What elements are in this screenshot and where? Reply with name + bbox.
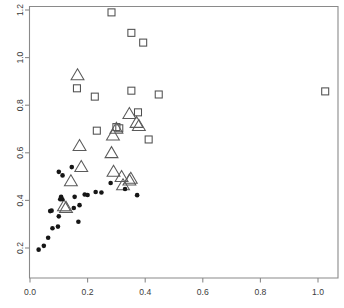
data-point-triangle — [64, 175, 77, 186]
y-tick-label: 0.4 — [15, 194, 25, 206]
x-tick-label: 0.6 — [197, 287, 209, 297]
data-point-dot — [50, 226, 55, 231]
y-axis-tick-labels: 0.20.40.60.81.01.2 — [15, 4, 25, 254]
data-point-square — [140, 39, 147, 46]
y-tick-label: 0.6 — [15, 147, 25, 159]
data-point-square — [322, 88, 329, 95]
y-tick-label: 1.2 — [15, 4, 25, 16]
series-squares — [73, 9, 328, 143]
data-point-dot — [72, 195, 77, 200]
data-point-dot — [42, 244, 47, 249]
data-point-triangle — [71, 69, 84, 80]
x-tick-label: 0.0 — [24, 287, 36, 297]
data-point-dot — [57, 170, 62, 175]
scatter-plot-figure: 0.00.20.40.60.81.0 0.20.40.60.81.01.2 — [0, 0, 344, 308]
data-point-dot — [71, 206, 76, 211]
data-point-square — [155, 91, 162, 98]
y-tick-label: 1.0 — [15, 51, 25, 63]
data-point-triangle — [130, 116, 143, 127]
axes — [30, 7, 339, 279]
data-point-dot — [69, 165, 74, 170]
series-dots — [36, 165, 139, 252]
data-point-triangle — [75, 160, 88, 171]
data-point-triangle — [105, 147, 118, 158]
x-tick-label: 0.8 — [254, 287, 266, 297]
plot-canvas: 0.00.20.40.60.81.0 0.20.40.60.81.01.2 — [0, 0, 344, 308]
x-axis-tick-labels: 0.00.20.40.60.81.0 — [24, 287, 324, 297]
data-point-dot — [60, 197, 65, 202]
data-point-dot — [93, 190, 98, 195]
data-point-dot — [57, 214, 62, 219]
y-tick-label: 0.2 — [15, 242, 25, 254]
data-point-dot — [77, 203, 82, 208]
data-point-square — [91, 93, 98, 100]
data-point-dot — [49, 208, 54, 213]
data-point-dot — [60, 173, 65, 178]
data-point-dot — [108, 181, 113, 186]
data-point-square — [93, 127, 100, 134]
data-point-triangle — [123, 108, 136, 119]
data-point-square — [128, 87, 135, 94]
data-point-square — [73, 85, 80, 92]
y-tick-label: 0.8 — [15, 99, 25, 111]
data-point-square — [145, 136, 152, 143]
data-point-dot — [36, 247, 41, 252]
data-point-square — [128, 29, 135, 36]
data-point-square — [108, 9, 115, 16]
tick-marks — [25, 10, 318, 283]
x-tick-label: 1.0 — [312, 287, 324, 297]
data-point-dot — [56, 224, 61, 229]
data-point-square — [135, 109, 142, 116]
data-point-dot — [123, 187, 128, 192]
data-point-dot — [135, 193, 140, 198]
data-point-triangle — [73, 139, 86, 150]
data-point-dot — [99, 190, 104, 195]
data-point-dot — [46, 235, 51, 240]
data-point-triangle — [107, 165, 120, 176]
x-tick-label: 0.4 — [139, 287, 151, 297]
data-point-dot — [76, 220, 81, 225]
x-tick-label: 0.2 — [82, 287, 94, 297]
data-point-dot — [85, 193, 90, 198]
